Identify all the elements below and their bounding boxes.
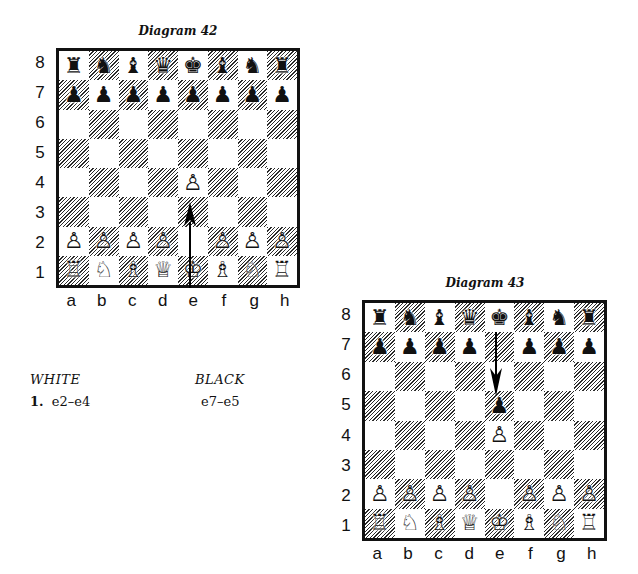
square-b1: ♘ bbox=[395, 509, 425, 538]
square-g5 bbox=[544, 391, 574, 420]
file-label: f bbox=[515, 544, 545, 564]
square-f3 bbox=[514, 450, 544, 479]
rank-label: 4 bbox=[338, 426, 354, 446]
square-e6 bbox=[178, 110, 208, 139]
square-a5 bbox=[365, 391, 395, 420]
square-c4 bbox=[425, 421, 455, 450]
square-f2: ♙ bbox=[208, 227, 238, 256]
square-a8: ♜ bbox=[365, 303, 395, 332]
square-g7: ♟ bbox=[238, 80, 268, 109]
chess-piece-icon: ♜ bbox=[579, 307, 599, 329]
square-b2: ♙ bbox=[89, 227, 119, 256]
square-h6 bbox=[267, 110, 297, 139]
square-h8: ♜ bbox=[267, 51, 297, 80]
square-g1: ♘ bbox=[544, 509, 574, 538]
square-c5 bbox=[119, 139, 149, 168]
chess-piece-icon: ♖ bbox=[579, 512, 599, 534]
square-b8: ♞ bbox=[89, 51, 119, 80]
chess-piece-icon: ♘ bbox=[400, 512, 420, 534]
square-a7: ♟ bbox=[59, 80, 89, 109]
square-d4 bbox=[148, 168, 178, 197]
square-b6 bbox=[89, 110, 119, 139]
square-f4 bbox=[208, 168, 238, 197]
square-e8: ♚ bbox=[178, 51, 208, 80]
chess-piece-icon: ♙ bbox=[153, 230, 173, 252]
file-label: a bbox=[56, 291, 86, 311]
square-g7: ♟ bbox=[544, 332, 574, 361]
square-f4 bbox=[514, 421, 544, 450]
rank-label: 7 bbox=[32, 83, 48, 103]
square-h2: ♙ bbox=[574, 479, 604, 508]
chess-piece-icon: ♘ bbox=[549, 512, 569, 534]
square-g4 bbox=[544, 421, 574, 450]
chess-piece-icon: ♙ bbox=[183, 172, 203, 194]
rank-label: 2 bbox=[32, 233, 48, 253]
chess-piece-icon: ♟ bbox=[400, 336, 420, 358]
chess-piece-icon: ♟ bbox=[94, 84, 114, 106]
square-h1: ♖ bbox=[574, 509, 604, 538]
file-label: a bbox=[362, 544, 392, 564]
square-e1: ♔ bbox=[485, 509, 515, 538]
square-f1: ♗ bbox=[208, 256, 238, 285]
file-label: f bbox=[209, 291, 239, 311]
chess-piece-icon: ♚ bbox=[183, 55, 203, 77]
file-label: e bbox=[178, 291, 208, 311]
square-h4 bbox=[574, 421, 604, 450]
chess-piece-icon: ♙ bbox=[490, 424, 510, 446]
square-g5 bbox=[238, 139, 268, 168]
square-b4 bbox=[395, 421, 425, 450]
square-c8: ♝ bbox=[119, 51, 149, 80]
file-label: e bbox=[485, 544, 515, 564]
chess-piece-icon: ♙ bbox=[579, 483, 599, 505]
chess-piece-icon: ♟ bbox=[519, 336, 539, 358]
square-h8: ♜ bbox=[574, 303, 604, 332]
move-arrow-up-icon bbox=[180, 200, 200, 290]
square-b7: ♟ bbox=[89, 80, 119, 109]
rank-label: 8 bbox=[32, 53, 48, 73]
square-g2: ♙ bbox=[544, 479, 574, 508]
square-f8: ♝ bbox=[514, 303, 544, 332]
square-h3 bbox=[267, 197, 297, 226]
chess-piece-icon: ♖ bbox=[370, 512, 390, 534]
square-f5 bbox=[208, 139, 238, 168]
square-d6 bbox=[455, 362, 485, 391]
chess-piece-icon: ♞ bbox=[243, 55, 263, 77]
square-a3 bbox=[365, 450, 395, 479]
square-d1: ♕ bbox=[455, 509, 485, 538]
square-d4 bbox=[455, 421, 485, 450]
chess-piece-icon: ♝ bbox=[124, 55, 144, 77]
square-a4 bbox=[59, 168, 89, 197]
chess-piece-icon: ♞ bbox=[549, 307, 569, 329]
square-h7: ♟ bbox=[267, 80, 297, 109]
file-label: b bbox=[393, 544, 423, 564]
chess-piece-icon: ♟ bbox=[272, 84, 292, 106]
chess-piece-icon: ♝ bbox=[213, 55, 233, 77]
rank-label: 1 bbox=[32, 263, 48, 283]
black-move: e7–e5 bbox=[201, 394, 239, 409]
chess-piece-icon: ♙ bbox=[243, 230, 263, 252]
chess-piece-icon: ♟ bbox=[579, 336, 599, 358]
square-a4 bbox=[365, 421, 395, 450]
file-label: h bbox=[270, 291, 300, 311]
square-b6 bbox=[395, 362, 425, 391]
square-g8: ♞ bbox=[544, 303, 574, 332]
chess-piece-icon: ♛ bbox=[153, 55, 173, 77]
chess-piece-icon: ♟ bbox=[124, 84, 144, 106]
file-label: d bbox=[148, 291, 178, 311]
square-g6 bbox=[544, 362, 574, 391]
square-b1: ♘ bbox=[89, 256, 119, 285]
file-label: b bbox=[87, 291, 117, 311]
chess-piece-icon: ♙ bbox=[370, 483, 390, 505]
chess-piece-icon: ♗ bbox=[124, 259, 144, 281]
chess-piece-icon: ♟ bbox=[183, 84, 203, 106]
chess-piece-icon: ♜ bbox=[370, 307, 390, 329]
square-b8: ♞ bbox=[395, 303, 425, 332]
chess-piece-icon: ♔ bbox=[490, 512, 510, 534]
square-d7: ♟ bbox=[148, 80, 178, 109]
rank-label: 6 bbox=[338, 365, 354, 385]
chess-piece-icon: ♜ bbox=[272, 55, 292, 77]
file-label: g bbox=[546, 544, 576, 564]
square-h5 bbox=[267, 139, 297, 168]
square-d2: ♙ bbox=[455, 479, 485, 508]
square-a2: ♙ bbox=[365, 479, 395, 508]
